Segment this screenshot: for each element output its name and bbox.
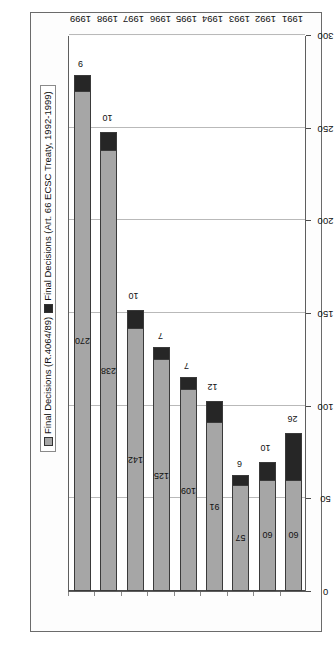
- category-tick-label: 1999: [66, 14, 96, 25]
- bar-segment-secondary: [127, 310, 144, 329]
- category-tick-mark: [121, 592, 122, 596]
- bar-group: 2709: [74, 36, 91, 591]
- bar-group: 6010: [259, 36, 276, 591]
- bar-segment-primary: 125: [153, 359, 170, 591]
- category-tick-label: 1996: [145, 14, 175, 25]
- legend-label-secondary: Final Decisions (Art. 66 ECSC Treaty, 19…: [43, 91, 53, 300]
- bar-segment-secondary: [285, 433, 302, 481]
- bar-group: 576: [232, 36, 249, 591]
- value-tick-mark: [306, 220, 311, 221]
- category-tick-label: 1995: [172, 14, 202, 25]
- category-tick-mark: [280, 592, 281, 596]
- bar-group: 1257: [153, 36, 170, 591]
- category-tick-label: 1997: [119, 14, 149, 25]
- bar-value-label-outer: 7: [158, 331, 163, 340]
- bar-segment-secondary: [259, 462, 276, 481]
- bar-group: 23810: [100, 36, 117, 591]
- bar-value-label: 109: [180, 486, 195, 495]
- value-tick-label: 150: [314, 309, 336, 320]
- bar-segment-primary: 142: [127, 328, 144, 591]
- bar-value-label: 238: [101, 366, 116, 375]
- value-tick-mark: [306, 313, 311, 314]
- bar-segment-primary: 238: [100, 150, 117, 591]
- value-tick-mark: [306, 128, 311, 129]
- bar-segment-primary: 109: [180, 389, 197, 591]
- bar-group: 9112: [206, 36, 223, 591]
- legend-item-primary: Final Decisions (R.4064/89): [43, 317, 53, 446]
- bar-value-label: 60: [262, 531, 272, 540]
- bar-value-label-outer: 10: [102, 114, 112, 123]
- bar-segment-primary: 270: [74, 91, 91, 591]
- value-tick-label: 100: [314, 401, 336, 412]
- category-tick-mark: [147, 592, 148, 596]
- value-tick-label: 250: [314, 123, 336, 134]
- bar-value-label-outer: 9: [78, 59, 83, 68]
- bar-segment-secondary: [100, 132, 117, 151]
- gridline: [69, 34, 305, 35]
- value-tick-mark: [306, 591, 311, 592]
- category-tick-mark: [253, 592, 254, 596]
- bar-chart: Final Decisions (R.4064/89) Final Decisi…: [30, 12, 322, 632]
- bar-segment-secondary: [153, 347, 170, 360]
- bar-value-label: 270: [75, 336, 90, 345]
- bar-group: 14210: [127, 36, 144, 591]
- bar-value-label-outer: 10: [129, 292, 139, 301]
- legend-label-primary: Final Decisions (R.4064/89): [43, 317, 53, 434]
- bar-value-label-outer: 6: [237, 459, 242, 468]
- value-tick-mark: [306, 498, 311, 499]
- bar-segment-secondary: [232, 475, 249, 486]
- bar-value-label: 91: [209, 502, 219, 511]
- value-tick-label: 0: [314, 587, 336, 598]
- black-square-icon: [44, 304, 53, 313]
- category-tick-label: 1994: [198, 14, 228, 25]
- value-tick-mark: [306, 35, 311, 36]
- plot-area: 6026601057691121097125714210238102709: [68, 36, 306, 592]
- bar-value-label-outer: 12: [208, 383, 218, 392]
- bar-value-label: 142: [128, 455, 143, 464]
- bar-segment-secondary: [180, 377, 197, 390]
- bar-value-label: 125: [154, 471, 169, 480]
- value-tick-mark: [306, 406, 311, 407]
- bar-series-group: 6026601057691121097125714210238102709: [69, 36, 305, 591]
- bar-group: 1097: [180, 36, 197, 591]
- bar-group: 6026: [285, 36, 302, 591]
- chart-legend: Final Decisions (R.4064/89) Final Decisi…: [40, 85, 56, 452]
- bar-value-label-outer: 7: [184, 361, 189, 370]
- category-tick-label: 1993: [224, 14, 254, 25]
- bar-segment-primary: 60: [259, 480, 276, 591]
- gray-square-icon: [44, 437, 53, 446]
- bar-segment-primary: 57: [232, 485, 249, 591]
- legend-item-secondary: Final Decisions (Art. 66 ECSC Treaty, 19…: [43, 91, 53, 312]
- category-tick-mark: [68, 592, 69, 596]
- rotated-chart-wrapper: Final Decisions (R.4064/89) Final Decisi…: [30, 12, 322, 632]
- bar-segment-primary: 91: [206, 422, 223, 591]
- category-tick-label: 1992: [251, 14, 281, 25]
- category-tick-label: 1991: [277, 14, 307, 25]
- category-tick-mark: [227, 592, 228, 596]
- bar-value-label-outer: 26: [287, 414, 297, 423]
- value-tick-label: 200: [314, 216, 336, 227]
- category-tick-mark: [174, 592, 175, 596]
- value-tick-label: 50: [314, 494, 336, 505]
- category-tick-mark: [94, 592, 95, 596]
- bar-segment-secondary: [206, 401, 223, 423]
- bar-value-label: 60: [289, 531, 299, 540]
- category-tick-label: 1998: [92, 14, 122, 25]
- category-tick-mark: [200, 592, 201, 596]
- bar-value-label: 57: [236, 534, 246, 543]
- bar-value-label-outer: 10: [261, 444, 271, 453]
- bar-segment-secondary: [74, 75, 91, 92]
- value-tick-label: 300: [314, 31, 336, 42]
- bar-segment-primary: 60: [285, 480, 302, 591]
